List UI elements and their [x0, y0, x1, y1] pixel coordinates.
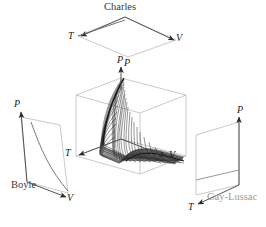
gaylussac-law-line — [196, 170, 239, 180]
boyle-axis-P — [21, 112, 27, 182]
boyle-axis-V-label: V — [67, 193, 73, 203]
boyle-law-curve — [31, 122, 68, 191]
gaylussac-axis-P-label: P — [237, 105, 243, 115]
boyle-panel-label: Boyle — [11, 180, 36, 191]
charles-panel-label: Charles — [104, 2, 136, 13]
charles-law-line — [78, 20, 125, 36]
figure-canvas: Charles T V P P T V P V Boyle P T Gay-Lu… — [0, 0, 266, 227]
center-axis-V-label: V — [169, 150, 175, 160]
charles-axis-V-label: V — [176, 33, 182, 43]
center-axis-V — [121, 139, 165, 156]
gaylussac-axis-T-label: T — [188, 202, 194, 212]
charles-axis-V — [125, 17, 174, 40]
center-axis-P-label: P — [117, 55, 123, 65]
gaylussac-panel-label: Gay-Lussac — [207, 192, 257, 203]
charles-axis-T-label: T — [68, 31, 74, 41]
boyle-axis-P-label: P — [14, 99, 20, 109]
center-axis-T-label: T — [65, 148, 71, 158]
center-axis-T — [79, 139, 121, 155]
charles-axis-P-label: P — [124, 58, 130, 68]
